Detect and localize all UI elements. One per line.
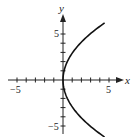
parabola-plot: x y −5 5 5 −5	[0, 0, 133, 137]
x-axis-label: x	[124, 74, 130, 86]
x-axis-arrow-icon	[116, 77, 124, 83]
x-tick-label-5: 5	[106, 84, 111, 95]
y-axis-arrow-icon	[60, 14, 66, 22]
y-tick-label-neg5: −5	[48, 121, 59, 132]
y-tick-label-5: 5	[54, 28, 59, 39]
x-tick-label-neg5: −5	[10, 84, 21, 95]
y-axis-label: y	[58, 2, 64, 14]
